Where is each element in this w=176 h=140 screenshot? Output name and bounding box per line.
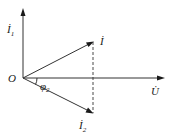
phasor-diagram: İ1 O İ İ2 U̇ φ2 [0, 0, 176, 140]
arrow-right-icon [157, 76, 165, 81]
label-i1: İ1 [6, 23, 14, 38]
vector-i2 [23, 78, 94, 114]
arrow-up-icon [21, 8, 26, 16]
label-phi2: φ2 [40, 80, 50, 94]
arrow-icon [86, 108, 94, 114]
label-origin: O [8, 72, 16, 84]
axis-i1-vector [21, 8, 26, 78]
label-i: İ [99, 35, 105, 47]
angle-phi2-arc [36, 78, 38, 85]
vector-i [23, 42, 94, 79]
label-i2: İ2 [78, 119, 87, 134]
label-u: U̇ [151, 85, 160, 97]
